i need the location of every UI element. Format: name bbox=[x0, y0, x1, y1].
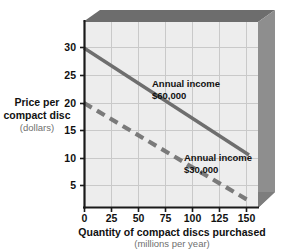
y-axis-title-line1: Price per bbox=[0, 96, 74, 109]
x-tick-label-75: 75 bbox=[153, 213, 178, 225]
bevel-right-face bbox=[258, 10, 275, 208]
x-tick-label-25: 25 bbox=[99, 213, 124, 225]
annotation-income-60000: Annual income $60,000 bbox=[152, 78, 220, 102]
plot-background bbox=[84, 22, 258, 208]
y-axis-title: Price per compact disc (dollars) bbox=[0, 96, 74, 135]
bevel-top-face bbox=[83, 10, 275, 22]
x-tick-label-150: 150 bbox=[234, 213, 259, 225]
x-axis-title-main: Quantity of compact discs purchased bbox=[60, 226, 284, 238]
annotation-income-30000-line1: Annual income bbox=[184, 152, 252, 164]
x-axis-title: Quantity of compact discs purchased (mil… bbox=[60, 226, 284, 249]
x-tick-label-100: 100 bbox=[180, 213, 205, 225]
x-axis-title-units: (millions per year) bbox=[60, 238, 284, 249]
annotation-income-30000-line2: $30,000 bbox=[184, 164, 252, 176]
y-axis-title-units: (dollars) bbox=[0, 122, 74, 134]
x-tick-label-125: 125 bbox=[207, 213, 232, 225]
y-tick-label-30: 30 bbox=[52, 42, 76, 54]
chart-container: 30 25 20 15 10 5 0 25 50 75 100 125 150 … bbox=[0, 0, 284, 251]
annotation-income-60000-line2: $60,000 bbox=[152, 90, 220, 102]
annotation-income-30000: Annual income $30,000 bbox=[184, 152, 252, 176]
y-tick-label-10: 10 bbox=[52, 153, 76, 165]
y-tick-label-5: 5 bbox=[52, 180, 76, 192]
annotation-income-60000-line1: Annual income bbox=[152, 78, 220, 90]
y-axis-title-line2: compact disc bbox=[0, 109, 74, 122]
x-tick-label-0: 0 bbox=[72, 213, 97, 225]
x-tick-label-50: 50 bbox=[126, 213, 151, 225]
y-tick-label-25: 25 bbox=[52, 70, 76, 82]
bevel-corner-wedge bbox=[258, 192, 275, 208]
